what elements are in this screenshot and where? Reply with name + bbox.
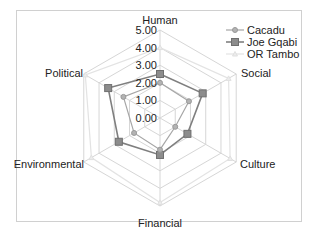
legend-label: Joe Gqabi — [247, 36, 297, 48]
series-or-tambo — [83, 45, 233, 204]
tick-label: 1.00 — [136, 94, 157, 106]
square-marker-icon — [232, 39, 239, 46]
data-point — [132, 130, 137, 135]
data-point — [158, 80, 163, 85]
axis-label-environmental: Environmental — [14, 158, 84, 170]
grid-spoke — [160, 74, 236, 118]
legend-label: OR Tambo — [247, 48, 299, 60]
data-point — [121, 94, 126, 99]
data-point — [173, 124, 178, 129]
data-point — [158, 45, 163, 50]
legend-label: Cacadu — [247, 24, 285, 36]
tick-label: 2.00 — [136, 77, 157, 89]
legend-item: OR Tambo — [226, 48, 299, 60]
legend-item: Joe Gqabi — [226, 36, 297, 48]
radial-tick-labels: 0.001.002.003.004.005.00 — [136, 24, 157, 124]
circle-marker-icon — [233, 28, 238, 33]
tick-label: 3.00 — [136, 59, 157, 71]
data-point — [184, 130, 191, 137]
radar-chart: 0.001.002.003.004.005.00 HumanSocialCult… — [0, 0, 316, 233]
axis-label-social: Social — [241, 67, 271, 79]
data-point — [83, 72, 88, 77]
axis-label-human: Human — [142, 14, 177, 26]
triangle-marker-icon — [233, 52, 238, 57]
tick-label: 0.00 — [136, 112, 157, 124]
data-point — [186, 99, 191, 104]
tick-label: 4.00 — [136, 42, 157, 54]
legend-item: Cacadu — [226, 24, 285, 36]
data-point — [158, 147, 163, 152]
data-point — [228, 156, 233, 161]
radar-series — [83, 45, 233, 204]
axis-label-financial: Financial — [138, 217, 182, 229]
data-point — [157, 71, 164, 78]
axis-label-culture: Culture — [240, 158, 275, 170]
data-point — [226, 76, 231, 81]
data-point — [115, 138, 122, 145]
data-point — [199, 90, 206, 97]
data-point — [89, 155, 94, 160]
axis-label-political: Political — [45, 67, 83, 79]
radar-grid — [84, 30, 236, 206]
grid-spoke — [160, 118, 236, 162]
legend: CacaduJoe GqabiOR Tambo — [226, 24, 299, 60]
data-point — [105, 85, 112, 92]
